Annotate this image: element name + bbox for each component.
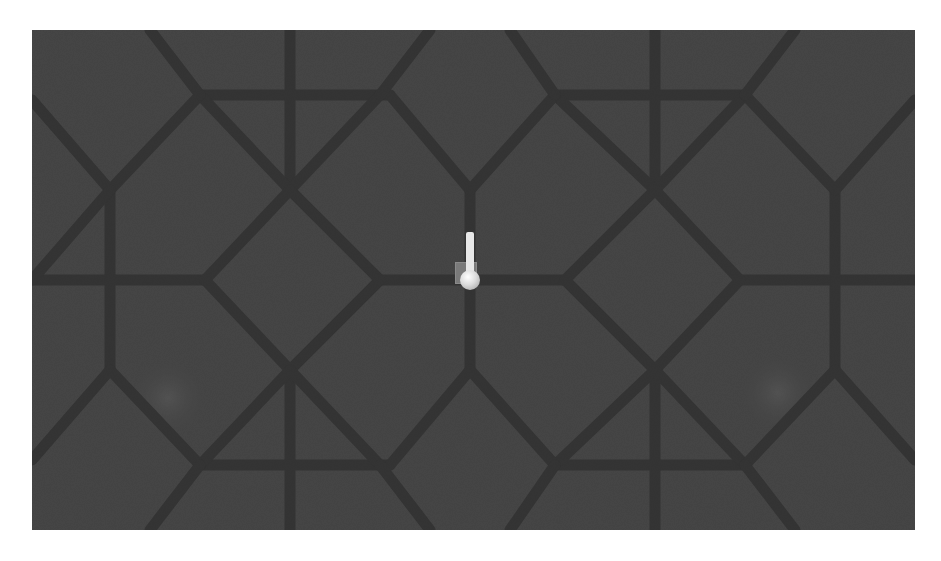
player-ball-icon	[460, 270, 480, 290]
game-viewport[interactable]	[32, 30, 915, 530]
